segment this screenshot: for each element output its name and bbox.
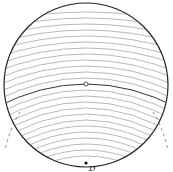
field-line: [0, 150, 173, 172]
field-line: [0, 12, 173, 22]
field-lines: [0, 12, 173, 172]
field-line: [0, 108, 173, 137]
field-line: [0, 48, 173, 65]
field-line: [0, 18, 173, 29]
field-line: [0, 102, 173, 130]
center-point: [84, 82, 88, 86]
diagram-canvas: D: [0, 0, 173, 172]
field-line: [0, 36, 173, 51]
point-d-label: D: [88, 164, 96, 172]
field-line: [0, 126, 173, 158]
field-line: [0, 96, 173, 122]
field-line: [0, 132, 173, 165]
field-line: [0, 144, 173, 172]
field-line: [0, 120, 173, 151]
field-line: [0, 60, 173, 79]
field-line: [0, 54, 173, 72]
field-line: [0, 30, 173, 44]
field-line: [0, 90, 173, 115]
point-d: [84, 161, 87, 164]
